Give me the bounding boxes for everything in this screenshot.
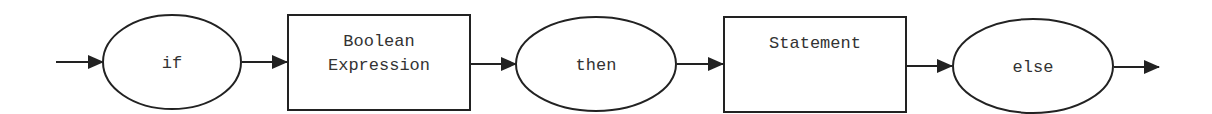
node-bool-label-line2: Expression	[328, 56, 430, 75]
node-statement: Statement	[724, 17, 906, 112]
node-boolean-expression: Boolean Expression	[288, 15, 470, 110]
node-statement-label: Statement	[769, 34, 861, 53]
node-else-label: else	[1013, 58, 1054, 77]
node-if: if	[103, 15, 241, 109]
node-else: else	[953, 19, 1113, 113]
node-bool-label-line1: Boolean	[343, 32, 414, 51]
if-then-else-diagram: if Boolean Expression then Statement els…	[0, 0, 1212, 114]
node-if-label: if	[162, 54, 182, 73]
node-then: then	[516, 17, 676, 111]
node-then-label: then	[576, 56, 617, 75]
